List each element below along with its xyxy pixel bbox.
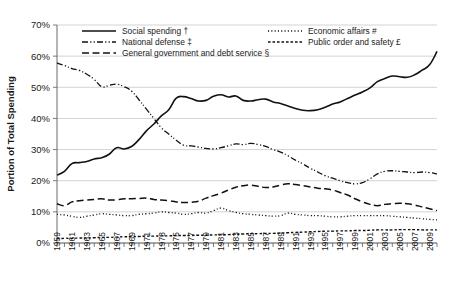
x-tick-label: 1987 <box>261 232 271 251</box>
x-tick-label: 1975 <box>171 232 181 251</box>
x-tick-label: 1959 <box>52 232 62 251</box>
x-tick-label: 1967 <box>112 232 122 251</box>
chart-legend: Social spending †National defense ‡Gener… <box>82 26 401 58</box>
x-tick-label: 1985 <box>246 232 256 251</box>
y-tick-label: 0% <box>36 237 50 248</box>
x-tick-label: 1993 <box>306 232 316 251</box>
y-tick-label: 40% <box>31 113 51 124</box>
x-tick-label: 1969 <box>127 232 137 251</box>
y-axis-title: Portion of Total Spending <box>5 76 16 192</box>
x-tick-label: 1977 <box>186 232 196 251</box>
line-chart: 0%10%20%30%40%50%60%70% 1959196119631965… <box>0 0 452 285</box>
x-tick-label: 1965 <box>97 232 107 251</box>
y-tick-label: 30% <box>31 144 51 155</box>
x-tick-label: 1971 <box>142 232 152 251</box>
x-tick-label: 2001 <box>365 232 375 251</box>
x-tick-label: 1997 <box>335 232 345 251</box>
x-tick-label: 1991 <box>291 232 301 251</box>
x-tick-label: 2005 <box>395 232 405 251</box>
series-lines <box>57 51 437 238</box>
y-tick-label: 60% <box>31 51 51 62</box>
x-tick-label: 2009 <box>425 232 435 251</box>
chart-container: 0%10%20%30%40%50%60%70% 1959196119631965… <box>0 0 452 285</box>
y-tick-label: 20% <box>31 175 51 186</box>
legend-label-3: Economic affairs # <box>308 26 377 36</box>
legend-label-4: Public order and safety £ <box>308 37 401 47</box>
x-tick-label: 1961 <box>67 232 77 251</box>
x-tick-label: 1995 <box>320 232 330 251</box>
x-tick-label: 2007 <box>410 232 420 251</box>
x-tick-label: 1989 <box>276 232 286 251</box>
series-line-3 <box>57 208 437 220</box>
y-axis: 0%10%20%30%40%50%60%70% <box>31 19 57 248</box>
x-tick-label: 2003 <box>380 232 390 251</box>
series-line-2 <box>57 184 437 211</box>
y-tick-label: 70% <box>31 19 51 30</box>
x-tick-label: 1973 <box>157 232 167 251</box>
y-tick-label: 50% <box>31 82 51 93</box>
legend-label-0: Social spending † <box>122 26 188 36</box>
x-tick-label: 1999 <box>350 232 360 251</box>
x-tick-label: 1963 <box>82 232 92 251</box>
series-line-0 <box>57 51 437 175</box>
legend-label-2: General government and debt service § <box>122 48 269 58</box>
x-axis: 1959196119631965196719691971197319751977… <box>52 232 437 251</box>
y-tick-label: 10% <box>31 206 51 217</box>
legend-label-1: National defense ‡ <box>122 37 192 47</box>
